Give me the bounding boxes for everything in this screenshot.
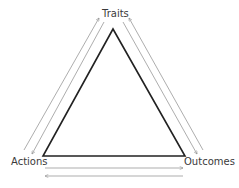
arrow-traits-to-outcomes bbox=[123, 22, 197, 154]
node-label-traits: Traits bbox=[102, 8, 129, 20]
traits-actions-outcomes-diagram: Traits Actions Outcomes bbox=[0, 0, 239, 188]
arrow-outcomes-to-traits bbox=[129, 18, 203, 150]
node-label-outcomes: Outcomes bbox=[184, 156, 235, 168]
arrow-traits-to-actions bbox=[32, 22, 104, 154]
central-triangle bbox=[43, 29, 185, 156]
node-label-actions: Actions bbox=[11, 156, 48, 168]
arrow-actions-to-traits bbox=[24, 18, 99, 150]
